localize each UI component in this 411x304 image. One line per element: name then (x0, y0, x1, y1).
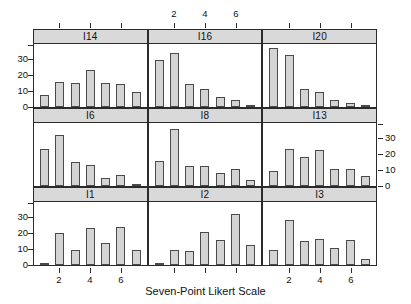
bar (101, 178, 110, 186)
bar (155, 161, 164, 186)
panel-title-i16: I16 (198, 32, 213, 42)
plot-area-i16 (148, 44, 263, 108)
panel-title-i6: I6 (86, 111, 95, 121)
y-tick-label-row2-10: 10 (2, 244, 28, 254)
bar-group-i13 (263, 123, 376, 186)
axis-tick (121, 23, 122, 28)
x-tick-label-col2-6: 6 (341, 275, 361, 285)
bar-group-i16 (149, 44, 262, 107)
bar (116, 227, 125, 265)
bar (116, 84, 125, 107)
bar (216, 97, 225, 107)
panel-i20: I20 (262, 29, 377, 108)
bar (231, 169, 240, 186)
axis-tick (378, 124, 383, 125)
bar (170, 250, 179, 265)
panel-title-i20: I20 (312, 32, 327, 42)
bar (361, 105, 370, 107)
bar (346, 240, 355, 265)
y-tick-label-row2-20: 20 (2, 228, 28, 238)
bar (55, 233, 64, 265)
panel-i8: I8 (148, 108, 263, 187)
bar (246, 180, 255, 186)
bar (132, 184, 141, 186)
y-tick-label-row2-30: 30 (2, 212, 28, 222)
bar-group-i2 (149, 202, 262, 265)
axis-tick (121, 268, 122, 273)
bar (315, 150, 324, 186)
axis-tick (289, 268, 290, 273)
plot-area-i14 (33, 44, 148, 108)
bar (170, 129, 179, 186)
plot-area-i8 (148, 123, 263, 187)
panel-i16: I16 (148, 29, 263, 108)
axis-tick (174, 268, 175, 273)
bar (71, 250, 80, 265)
bar (216, 173, 225, 186)
y-tick-label-row0-0: 0 (2, 102, 28, 112)
panel-title-i3: I3 (315, 190, 324, 200)
panel-strip-i1: I1 (33, 187, 148, 202)
x-tick-label-col2-4: 4 (310, 275, 330, 285)
bar (71, 83, 80, 107)
x-tick-label-top-4: 4 (195, 9, 215, 19)
x-tick-label-top-6: 6 (226, 9, 246, 19)
bar (216, 240, 225, 265)
panel-strip-i13: I13 (262, 108, 377, 123)
y-tick-label-row0-20: 20 (2, 70, 28, 80)
axis-tick (320, 23, 321, 28)
plot-area-i1 (33, 202, 148, 266)
panel-title-i13: I13 (312, 111, 327, 121)
bar-group-i8 (149, 123, 262, 186)
panel-title-i1: I1 (86, 190, 95, 200)
y-tick-label-row2-0: 0 (2, 260, 28, 270)
bar (55, 82, 64, 107)
axis-tick (289, 23, 290, 28)
bar (285, 55, 294, 107)
bar (200, 89, 209, 107)
panel-strip-i16: I16 (148, 29, 263, 44)
bar (231, 214, 240, 265)
x-axis-title: Seven-Point Likert Scale (0, 285, 411, 297)
bar (315, 239, 324, 265)
bar (55, 135, 64, 186)
plot-area-i3 (262, 202, 377, 266)
axis-tick (174, 23, 175, 28)
axis-tick (28, 91, 33, 92)
bar-group-i14 (34, 44, 147, 107)
bar-group-i3 (263, 202, 376, 265)
bar (86, 228, 95, 265)
axis-tick (28, 107, 33, 108)
bar (101, 83, 110, 107)
bar (361, 259, 370, 265)
panel-strip-i8: I8 (148, 108, 263, 123)
y-tick-label-row0-10: 10 (2, 86, 28, 96)
axis-tick (90, 23, 91, 28)
panel-title-i2: I2 (201, 190, 210, 200)
axis-tick (351, 23, 352, 28)
axis-tick (205, 23, 206, 28)
bar (40, 263, 49, 265)
bar (200, 166, 209, 186)
axis-tick (378, 186, 383, 187)
axis-tick (90, 268, 91, 273)
panel-strip-i2: I2 (148, 187, 263, 202)
axis-tick (59, 23, 60, 28)
bar (86, 70, 95, 107)
bar (269, 48, 278, 107)
bar-group-i6 (34, 123, 147, 186)
axis-tick (378, 170, 383, 171)
bar (132, 92, 141, 107)
x-tick-label-col0-4: 4 (80, 275, 100, 285)
y-tick-label-row1-10: 10 (385, 165, 407, 175)
axis-tick (28, 249, 33, 250)
bar (330, 100, 339, 107)
bar (330, 248, 339, 265)
bar (300, 89, 309, 107)
panel-strip-i14: I14 (33, 29, 148, 44)
plot-area-i20 (262, 44, 377, 108)
y-tick-label-row1-20: 20 (385, 149, 407, 159)
bar (170, 53, 179, 107)
axis-tick (378, 138, 383, 139)
axis-tick (28, 59, 33, 60)
